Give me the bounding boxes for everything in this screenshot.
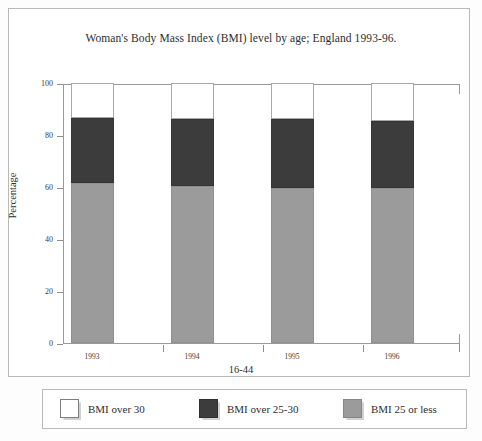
- bar-1995[interactable]: [271, 83, 314, 343]
- axis-right-top-cap: [459, 84, 460, 94]
- legend-label-bmi-25-or-less: BMI 25 or less: [371, 403, 437, 415]
- bar-1995-segment-bmi-over-30[interactable]: [271, 83, 314, 119]
- legend-label-bmi-over-25-30: BMI over 25-30: [227, 403, 299, 415]
- bar-1994-segment-bmi-25-30[interactable]: [171, 119, 214, 185]
- x-tick-mark-2: [263, 345, 264, 352]
- bar-1996[interactable]: [371, 83, 414, 343]
- legend-item-bmi-over-30[interactable]: BMI over 30: [60, 399, 145, 418]
- y-tick-label-100: 100: [13, 80, 53, 88]
- chart-title: Woman's Body Mass Index (BMI) level by a…: [0, 32, 482, 44]
- bar-1995-segment-bmi-25-30[interactable]: [271, 119, 314, 188]
- y-tick-label-20: 20: [13, 288, 53, 296]
- chart-page: Woman's Body Mass Index (BMI) level by a…: [0, 0, 482, 441]
- x-tick-mark-4: [459, 345, 460, 352]
- bar-1996-segment-bmi-25-or-less[interactable]: [371, 188, 414, 343]
- x-tick-label-1993: 1993: [62, 352, 122, 361]
- x-tick-label-1994: 1994: [162, 352, 222, 361]
- bar-1994-segment-bmi-over-30[interactable]: [171, 83, 214, 119]
- legend-swatch-white-icon: [60, 399, 79, 418]
- legend-swatch-gray-icon: [343, 399, 362, 418]
- y-tick-label-0: 0: [13, 340, 53, 348]
- bar-1993-segment-bmi-25-or-less[interactable]: [71, 183, 114, 343]
- x-tick-mark-1: [163, 345, 164, 352]
- legend-label-bmi-over-30: BMI over 30: [88, 403, 145, 415]
- bar-1996-segment-bmi-over-30[interactable]: [371, 83, 414, 121]
- bar-1993-segment-bmi-25-30[interactable]: [71, 118, 114, 183]
- x-tick-mark-3: [363, 345, 364, 352]
- bar-1996-segment-bmi-25-30[interactable]: [371, 121, 414, 189]
- bar-1993[interactable]: [71, 83, 114, 343]
- bar-1994[interactable]: [171, 83, 214, 343]
- bar-1995-segment-bmi-25-or-less[interactable]: [271, 188, 314, 343]
- y-axis-title: Percentage: [7, 96, 18, 296]
- bar-1993-segment-bmi-over-30[interactable]: [71, 83, 114, 118]
- x-axis-group-label: 16-44: [0, 364, 482, 375]
- plot-area: [63, 84, 460, 344]
- y-tick-mark-0: [57, 344, 63, 345]
- y-tick-label-80: 80: [13, 132, 53, 140]
- y-tick-label-60: 60: [13, 184, 53, 192]
- legend-swatch-dark-icon: [199, 399, 218, 418]
- x-tick-label-1996: 1996: [362, 352, 422, 361]
- x-tick-label-1995: 1995: [262, 352, 322, 361]
- y-tick-label-40: 40: [13, 236, 53, 244]
- axis-right-bottom-cap: [459, 334, 460, 345]
- legend-item-bmi-over-25-30[interactable]: BMI over 25-30: [199, 399, 299, 418]
- legend-item-bmi-25-or-less[interactable]: BMI 25 or less: [343, 399, 437, 418]
- legend: BMI over 30 BMI over 25-30 BMI 25 or les…: [42, 389, 467, 429]
- bar-1994-segment-bmi-25-or-less[interactable]: [171, 186, 214, 343]
